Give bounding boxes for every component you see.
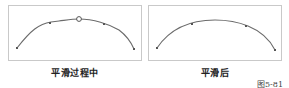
caption-during-smoothing: 平滑过程中 bbox=[8, 66, 142, 79]
anchor-point-icon bbox=[49, 22, 51, 24]
curve-during-smoothing bbox=[9, 6, 143, 62]
anchor-point-icon bbox=[274, 49, 276, 51]
anchor-point-icon bbox=[16, 47, 18, 49]
selected-anchor-circle-icon bbox=[77, 17, 82, 22]
anchor-point-icon bbox=[133, 48, 135, 50]
anchor-point-icon bbox=[156, 47, 158, 49]
anchor-point-icon bbox=[245, 25, 247, 27]
anchor-point-icon bbox=[103, 23, 105, 25]
curve-after-smoothing bbox=[149, 6, 283, 62]
anchor-point-icon bbox=[191, 23, 193, 25]
figure-label: 图5-81 bbox=[257, 78, 283, 88]
panel-during-smoothing bbox=[8, 5, 142, 61]
panel-after-smoothing bbox=[148, 5, 282, 61]
